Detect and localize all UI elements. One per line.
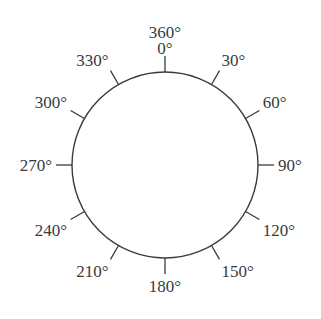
- tick-120: [246, 212, 260, 220]
- tick-210: [111, 246, 119, 260]
- label-60: 60°: [263, 93, 287, 112]
- tick-30: [212, 71, 220, 85]
- label-300: 300°: [35, 93, 67, 112]
- label-90: 90°: [278, 156, 302, 175]
- label-0: 0°: [157, 39, 172, 58]
- tick-marks: [56, 56, 274, 274]
- angle-dial-diagram: 360° 0°30°60°90°120°150°180°210°240°270°…: [0, 0, 321, 319]
- label-270: 270°: [20, 156, 52, 175]
- dial-canvas: 360° 0°30°60°90°120°150°180°210°240°270°…: [0, 0, 321, 319]
- label-240: 240°: [35, 221, 67, 240]
- label-120: 120°: [263, 221, 295, 240]
- tick-60: [246, 111, 260, 119]
- label-30: 30°: [222, 51, 246, 70]
- label-330: 330°: [76, 51, 108, 70]
- tick-150: [212, 246, 220, 260]
- tick-300: [71, 111, 85, 119]
- tick-240: [71, 212, 85, 220]
- angle-labels: 360° 0°30°60°90°120°150°180°210°240°270°…: [20, 23, 302, 296]
- tick-330: [111, 71, 119, 85]
- label-180: 180°: [149, 277, 181, 296]
- label-210: 210°: [76, 262, 108, 281]
- label-150: 150°: [222, 262, 254, 281]
- dial-circle: [72, 72, 258, 258]
